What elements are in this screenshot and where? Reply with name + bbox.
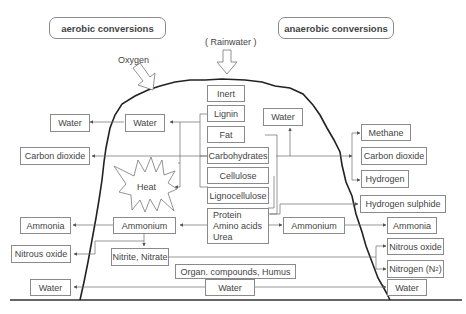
- methane-box: Methane: [361, 124, 411, 141]
- water-right-bottom-box: Water: [387, 279, 427, 296]
- cellulose-box: Cellulose: [207, 167, 269, 184]
- ammonia-left-box: Ammonia: [20, 217, 71, 234]
- nitrogen-box: Nitrogen (N2): [387, 260, 444, 278]
- aerobic-conversions-header: aerobic conversions: [49, 17, 166, 39]
- heat-label: Heat: [137, 182, 156, 192]
- water-inner-box: Water: [125, 114, 165, 132]
- urea-label: Urea: [213, 232, 233, 243]
- carbohydrates-box: Carbohydrates: [207, 147, 269, 164]
- rainwater-arrow: [217, 50, 237, 74]
- protein-aminoacids-urea-box: Protein Amino acids Urea: [207, 208, 269, 244]
- lignin-box: Lignin: [207, 105, 245, 122]
- water-outer-box: Water: [50, 114, 90, 132]
- fat-box: Fat: [207, 126, 245, 143]
- water-center-bottom-box: Water: [205, 279, 255, 296]
- nitrogen-label: Nitrogen (N: [389, 264, 435, 274]
- rainwater-label: ( Rainwater ): [205, 37, 257, 47]
- carbon-dioxide-right-box: Carbon dioxide: [361, 147, 427, 165]
- organic-compounds-humus-box: Organ. compounds, Humus: [175, 264, 296, 279]
- amino-acids-label: Amino acids: [213, 221, 262, 232]
- oxygen-label: Oxygen: [118, 55, 149, 65]
- nitrogen-close: ): [439, 264, 442, 274]
- nitrous-oxide-left-box: Nitrous oxide: [11, 245, 71, 263]
- lignocellulose-box: Lignocellulose: [207, 187, 269, 204]
- hydrogen-box: Hydrogen: [361, 170, 409, 188]
- nitrous-oxide-right-box: Nitrous oxide: [387, 238, 444, 255]
- ammonia-right-box: Ammonia: [387, 217, 437, 234]
- protein-label: Protein: [213, 210, 242, 221]
- ammonium-right-box: Ammonium: [283, 217, 345, 234]
- carbon-dioxide-left-box: Carbon dioxide: [20, 147, 90, 165]
- water-left-bottom-box: Water: [30, 279, 71, 296]
- inert-box: Inert: [207, 85, 245, 102]
- water-top-right-box: Water: [263, 108, 303, 126]
- oxygen-arrow: [133, 63, 155, 90]
- nitrite-nitrate-box: Nitrite, Nitrate: [111, 248, 169, 266]
- anaerobic-conversions-header: anaerobic conversions: [278, 17, 394, 39]
- hydrogen-sulphide-box: Hydrogen sulphide: [360, 195, 446, 213]
- ammonium-left-box: Ammonium: [113, 217, 176, 234]
